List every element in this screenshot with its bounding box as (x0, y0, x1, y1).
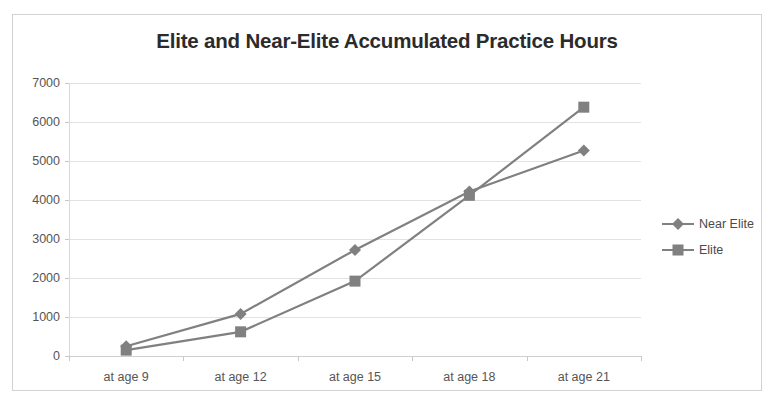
y-tick-label: 1000 (32, 310, 60, 324)
data-point-marker-square (235, 326, 246, 337)
x-tick-label: at age 18 (443, 370, 495, 384)
x-tick-mark (412, 356, 413, 361)
data-point-marker-square (464, 190, 475, 201)
y-tick-label: 5000 (32, 154, 60, 168)
gridline (69, 356, 641, 357)
plot-area: 01000200030004000500060007000 at age 9at… (69, 83, 641, 356)
y-tick-label: 3000 (32, 232, 60, 246)
data-point-marker-square (578, 102, 589, 113)
x-tick-mark (527, 356, 528, 361)
legend-entry-elite: Elite (661, 237, 754, 263)
data-point-marker-diamond (235, 308, 247, 320)
series-line (126, 107, 584, 350)
legend-label: Elite (699, 244, 723, 257)
chart-legend: Near EliteElite (661, 211, 754, 263)
data-point-marker-square (673, 245, 684, 256)
x-tick-label: at age 21 (558, 370, 610, 384)
data-point-marker-diamond (349, 244, 361, 256)
x-tick-label: at age 9 (104, 370, 149, 384)
data-point-marker-diamond (672, 218, 684, 230)
x-tick-mark (298, 356, 299, 361)
y-tick-label: 2000 (32, 271, 60, 285)
chart-figure: Elite and Near-Elite Accumulated Practic… (12, 14, 762, 391)
x-tick-mark (69, 356, 70, 361)
chart-title: Elite and Near-Elite Accumulated Practic… (13, 29, 761, 53)
x-tick-label: at age 12 (215, 370, 267, 384)
y-tick-label: 7000 (32, 76, 60, 90)
x-tick-label: at age 15 (329, 370, 381, 384)
data-point-marker-diamond (578, 144, 590, 156)
legend-marker-diamond (661, 217, 695, 231)
data-point-marker-square (121, 345, 132, 356)
x-tick-mark (641, 356, 642, 361)
legend-entry-near-elite: Near Elite (661, 211, 754, 237)
series-plot (69, 83, 641, 356)
legend-marker-square (661, 243, 695, 257)
y-tick-label: 4000 (32, 193, 60, 207)
y-tick-label: 0 (53, 349, 60, 363)
legend-label: Near Elite (699, 218, 754, 231)
y-tick-label: 6000 (32, 115, 60, 129)
x-tick-mark (183, 356, 184, 361)
data-point-marker-square (350, 276, 361, 287)
